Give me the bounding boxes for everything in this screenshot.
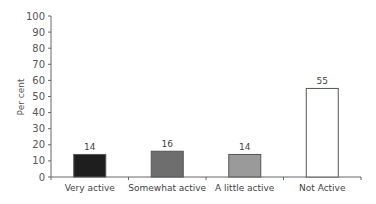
y-tick-label: 50 — [32, 91, 45, 102]
x-category-label: Not Active — [299, 183, 346, 193]
x-category-label: A little active — [215, 183, 275, 193]
data-label: 14 — [239, 142, 251, 152]
y-tick-label: 40 — [32, 107, 45, 118]
bar-not-active — [306, 88, 338, 177]
data-label: 14 — [84, 142, 96, 152]
y-tick-label: 90 — [32, 27, 45, 38]
data-label: 16 — [162, 139, 174, 149]
y-tick-label: 20 — [32, 139, 45, 150]
y-tick-label: 10 — [32, 155, 45, 166]
bar-chart: Per cent 0102030405060708090100 14Very a… — [0, 0, 376, 204]
y-tick-label: 0 — [39, 172, 45, 183]
bar-very-active — [74, 154, 106, 177]
y-tick-label: 60 — [32, 75, 45, 86]
y-tick-label: 100 — [26, 11, 45, 22]
y-tick-label: 30 — [32, 123, 45, 134]
bar-a-little-active — [229, 154, 261, 177]
y-tick-label: 80 — [32, 43, 45, 54]
data-label: 55 — [317, 76, 328, 86]
x-category-label: Very active — [65, 183, 116, 193]
y-axis-title: Per cent — [16, 78, 26, 115]
y-axis: 0102030405060708090100 — [26, 11, 51, 183]
bar-somewhat-active — [151, 151, 183, 177]
y-tick-label: 70 — [32, 59, 45, 70]
bars: 14Very active16Somewhat active14A little… — [65, 76, 346, 193]
x-category-label: Somewhat active — [128, 183, 206, 193]
